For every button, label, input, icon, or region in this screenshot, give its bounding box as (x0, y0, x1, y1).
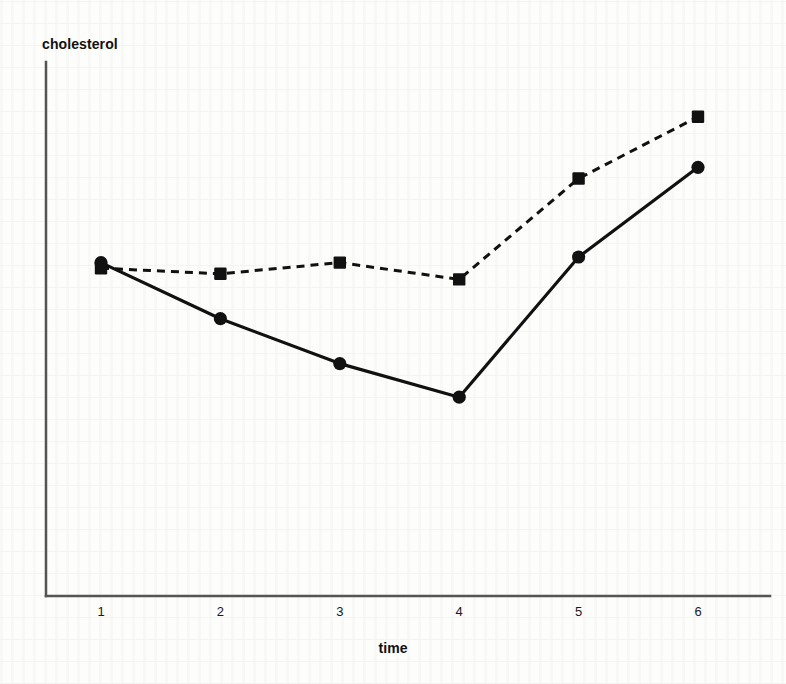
series-solid-circle-series (94, 161, 704, 404)
data-point-marker (334, 256, 346, 268)
axis-lines (46, 62, 770, 596)
plot-area (0, 0, 786, 684)
x-tick-label-2: 2 (205, 604, 235, 619)
series-line-circle (101, 167, 698, 397)
x-tick-label-3: 3 (325, 604, 355, 619)
data-point-marker (572, 172, 584, 184)
y-axis-label: cholesterol (42, 36, 118, 52)
data-point-marker (214, 268, 226, 280)
data-point-marker (453, 391, 466, 404)
series-dashed-square-series (95, 111, 704, 286)
data-point-marker (333, 357, 346, 370)
x-tick-label-5: 5 (564, 604, 594, 619)
series-line-square (101, 117, 698, 280)
data-point-marker (453, 273, 465, 285)
x-tick-label-6: 6 (683, 604, 713, 619)
data-point-marker (692, 111, 704, 123)
data-series-layer (94, 111, 704, 404)
x-tick-label-4: 4 (444, 604, 474, 619)
x-axis-label: time (0, 640, 786, 656)
x-tick-label-1: 1 (86, 604, 116, 619)
data-point-marker (94, 256, 107, 269)
data-point-marker (691, 161, 704, 174)
chart-figure: cholesterol time 123456 (0, 0, 786, 684)
data-point-marker (214, 312, 227, 325)
data-point-marker (572, 250, 585, 263)
